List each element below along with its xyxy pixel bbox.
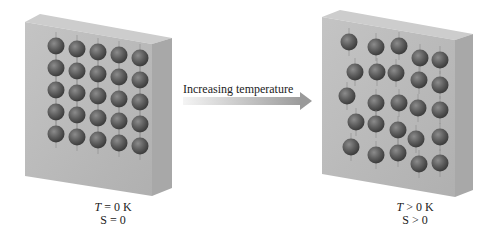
atom (69, 107, 86, 124)
atom (69, 85, 86, 102)
atom (391, 95, 408, 112)
left-caption: T = 0 K S = 0 (73, 201, 153, 227)
crystal-block-ordered (25, 14, 172, 196)
atom (369, 64, 386, 81)
block-side-face (152, 38, 172, 196)
atom (432, 77, 449, 94)
atom (132, 138, 149, 155)
atom (341, 34, 358, 51)
atom (48, 38, 65, 55)
atom (410, 100, 427, 117)
atom (132, 116, 149, 133)
atom (391, 38, 408, 55)
atom (48, 126, 65, 143)
atom (432, 129, 449, 146)
block-front-face (25, 22, 152, 196)
arrow-head-icon (300, 92, 312, 110)
right-caption: T > 0 K S > 0 (375, 201, 455, 227)
atom (90, 132, 107, 149)
atom (368, 95, 385, 112)
atom (90, 44, 107, 61)
atom (132, 94, 149, 111)
atom (339, 88, 356, 105)
atom (432, 155, 449, 172)
atom (111, 69, 128, 86)
atom (69, 63, 86, 80)
block-side-face (455, 34, 473, 197)
atom (111, 135, 128, 152)
atom (411, 156, 428, 173)
atom (390, 145, 407, 162)
atom (90, 88, 107, 105)
left-entropy: S = 0 (73, 214, 153, 227)
atom (388, 65, 405, 82)
atom (368, 147, 385, 164)
atom (69, 41, 86, 58)
arrow-label: Increasing temperature (183, 82, 293, 97)
atom (411, 72, 428, 89)
atom (368, 116, 385, 133)
atom (90, 110, 107, 127)
atom (48, 104, 65, 121)
atom (343, 139, 360, 156)
atom (111, 91, 128, 108)
atom (408, 131, 425, 148)
atom (432, 52, 449, 69)
atom (390, 122, 407, 139)
atom (111, 47, 128, 64)
atom (48, 60, 65, 77)
atom (432, 102, 449, 119)
atom (90, 66, 107, 83)
right-entropy: S > 0 (375, 214, 455, 227)
atom (132, 72, 149, 89)
atom (412, 50, 429, 67)
atom (348, 114, 365, 131)
atom (69, 129, 86, 146)
crystal-block-disordered (322, 10, 473, 197)
atom (48, 82, 65, 99)
atom (368, 39, 385, 56)
atom (132, 50, 149, 67)
atom (347, 64, 364, 81)
atom (111, 113, 128, 130)
